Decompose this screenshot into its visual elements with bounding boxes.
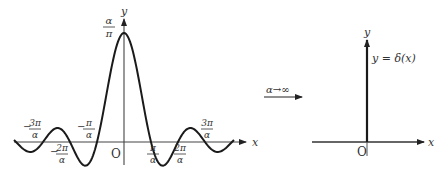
svg-text:2π: 2π: [173, 143, 187, 153]
svg-text:α: α: [32, 130, 38, 140]
tick-label: 2πα: [173, 143, 187, 165]
svg-text:3π: 3π: [29, 118, 42, 128]
svg-text:α: α: [86, 130, 92, 140]
peak-label: α π: [103, 15, 115, 39]
diagram-canvas: y x O α π −3πα−2πα−παπα2πα3πα α→∞ y x O …: [0, 0, 442, 174]
right-origin-label: O: [357, 145, 367, 159]
svg-text:α: α: [204, 130, 210, 140]
svg-text:−: −: [77, 121, 85, 132]
svg-text:π: π: [105, 28, 113, 39]
left-y-label: y: [120, 5, 128, 18]
right-x-label: x: [428, 136, 435, 149]
svg-text:α: α: [106, 15, 113, 26]
svg-text:2π: 2π: [55, 143, 69, 153]
left-x-label: x: [252, 136, 259, 149]
tick-label: −3πα: [23, 118, 42, 140]
right-y-label: y: [363, 26, 371, 39]
limit-arrow: α→∞: [264, 84, 302, 97]
svg-text:3π: 3π: [201, 118, 214, 128]
right-plot: y x O y = δ(x): [312, 26, 435, 159]
tick-label: −2πα: [50, 143, 69, 165]
delta-function-label: y = δ(x): [371, 52, 416, 65]
tick-label: −πα: [77, 118, 95, 140]
svg-text:α: α: [150, 155, 156, 165]
tick-label: 3πα: [201, 118, 214, 140]
svg-text:π: π: [149, 143, 157, 153]
left-plot: y x O α π −3πα−2πα−παπα2πα3πα: [14, 5, 259, 166]
svg-text:π: π: [85, 118, 93, 128]
svg-text:α: α: [59, 155, 65, 165]
limit-label: α→∞: [266, 84, 289, 95]
svg-text:α: α: [177, 155, 183, 165]
left-origin-label: O: [111, 147, 121, 161]
